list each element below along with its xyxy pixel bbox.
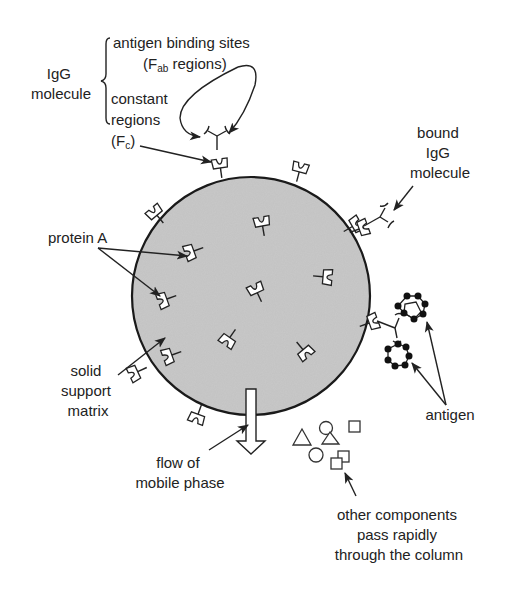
- igg-molecule-free: [204, 126, 230, 150]
- label-bound-igg: bound IgG molecule: [410, 124, 470, 181]
- other-components: [293, 421, 360, 469]
- affinity-chromatography-diagram: IgG molecule antigen binding sites (Fab …: [0, 0, 506, 589]
- label-protein-a: protein A: [48, 229, 107, 246]
- label-antigen-binding-sites: antigen binding sites: [113, 34, 250, 51]
- label-solid-support-matrix: solid support matrix: [61, 362, 115, 419]
- label-igg-molecule: IgG molecule: [31, 65, 91, 102]
- antigen-upper: [395, 293, 429, 323]
- label-constant-regions: constant regions: [111, 90, 172, 128]
- label-flow-mobile-phase: flow of mobile phase: [135, 454, 224, 491]
- antigen-lower: [385, 341, 413, 370]
- label-antigen: antigen: [425, 406, 474, 423]
- label-fab-regions: (Fab regions): [143, 55, 227, 74]
- igg-bracket: [101, 38, 110, 124]
- label-other-components: other components pass rapidly through th…: [335, 506, 463, 563]
- label-fc: (Fc): [111, 132, 135, 151]
